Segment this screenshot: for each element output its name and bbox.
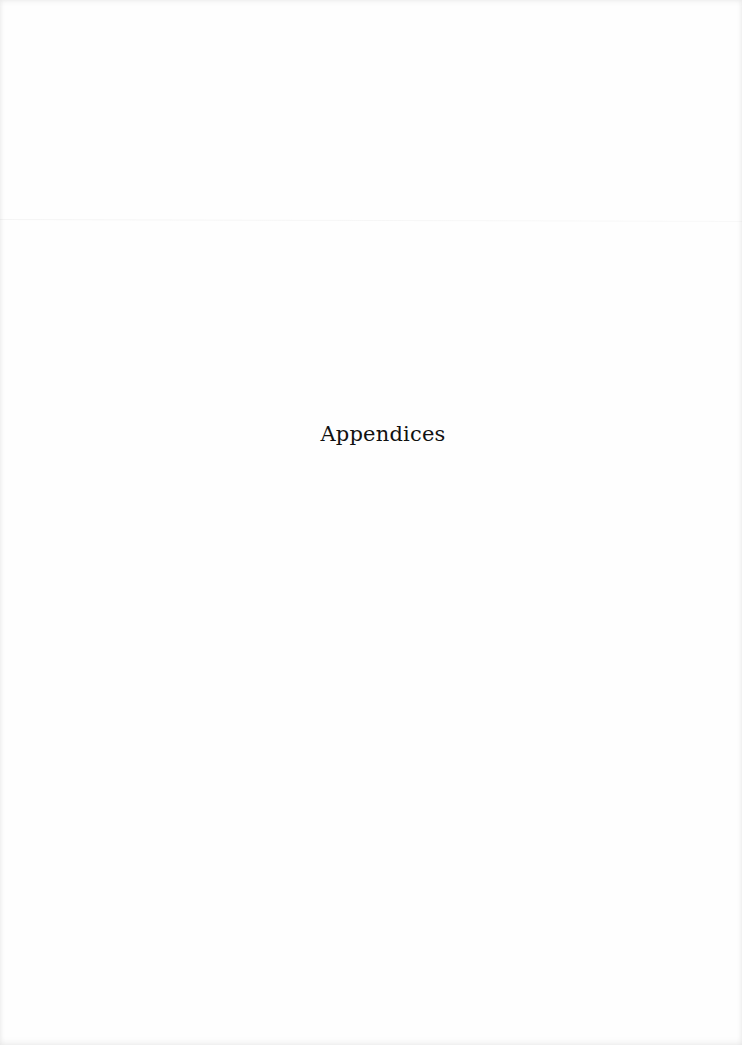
section-heading: Appendices bbox=[0, 422, 742, 446]
scan-fold-line bbox=[0, 219, 742, 222]
document-page: Appendices bbox=[0, 0, 742, 1045]
